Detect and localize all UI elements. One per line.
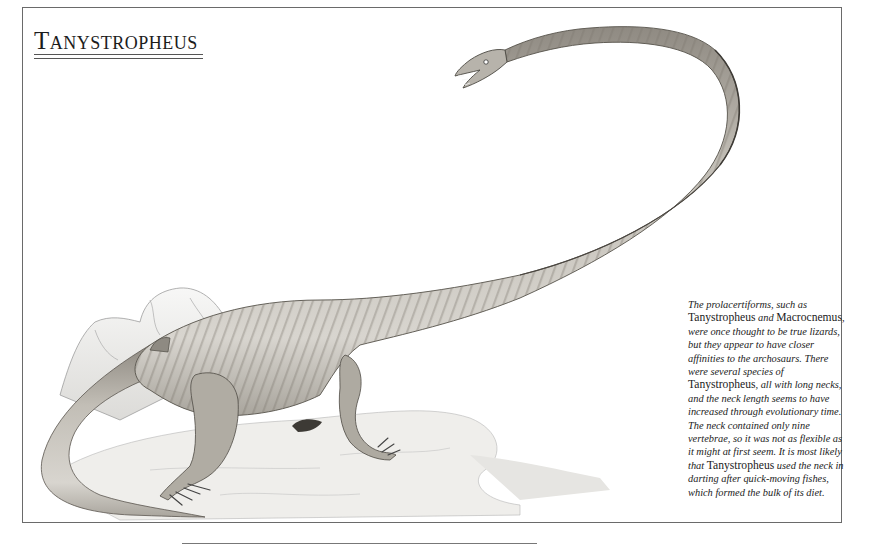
caption-segment: and (755, 312, 776, 323)
title-underline-top (34, 54, 203, 55)
caption-text: The prolacertiforms, such as Tanystrophe… (688, 298, 850, 499)
caption-taxon: Tanystropheus (707, 459, 774, 472)
caption-segment: The prolacertiforms, such as (688, 299, 807, 310)
caption-taxon: Tanystropheus (688, 311, 755, 324)
head (455, 49, 507, 88)
title-underline-bottom (34, 58, 203, 59)
caption-taxon: Macrocnemus (776, 311, 842, 324)
caption-taxon: Tanystropheus (688, 378, 755, 391)
bottom-rule (182, 543, 537, 544)
page-title: Tanystropheus (34, 28, 198, 53)
caption-segment: , all with long necks, and the neck leng… (688, 379, 842, 470)
